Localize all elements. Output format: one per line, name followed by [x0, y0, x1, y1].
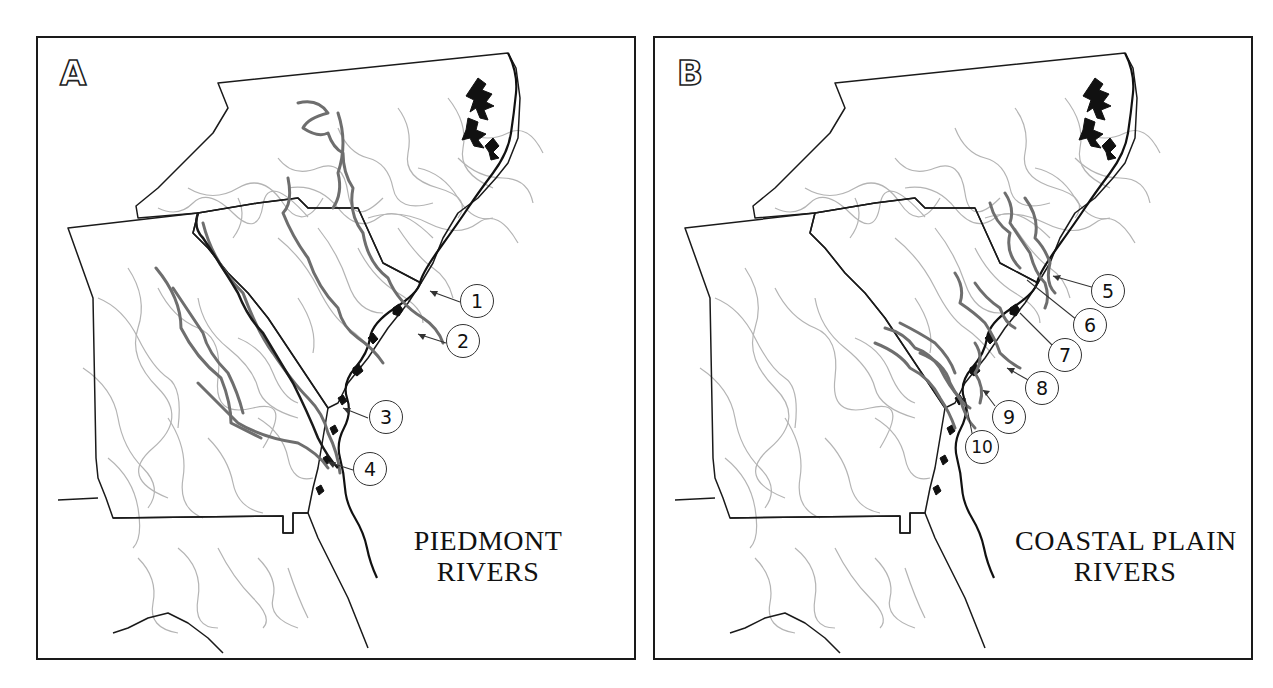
callout-5: 5	[1091, 274, 1125, 308]
panel-a-piedmont-rivers: A 1 2 3 4 PIEDMONT RIVERS	[36, 36, 636, 660]
callout-8: 8	[1025, 371, 1059, 405]
panel-label-a: A	[60, 56, 86, 90]
callout-2: 2	[446, 324, 480, 358]
callout-7: 7	[1048, 338, 1082, 372]
callout-9: 9	[992, 400, 1026, 434]
panel-b-title: COASTAL PLAIN RIVERS	[1015, 525, 1235, 587]
panel-b-title-line1: COASTAL PLAIN	[1015, 525, 1235, 556]
callout-3: 3	[369, 400, 403, 434]
panel-label-b: B	[677, 56, 703, 90]
panel-b-coastal-plain-rivers: B 5 6 7 8 9 10 COASTAL PLAIN RIVERS	[653, 36, 1253, 660]
panel-b-title-line2: RIVERS	[1015, 556, 1235, 587]
panel-a-title: PIEDMONT RIVERS	[388, 525, 588, 587]
callout-10: 10	[965, 430, 999, 464]
callout-1: 1	[460, 284, 494, 318]
callout-6: 6	[1073, 308, 1107, 342]
callout-4: 4	[353, 452, 387, 486]
panel-a-title-line1: PIEDMONT	[388, 525, 588, 556]
panel-a-title-line2: RIVERS	[388, 556, 588, 587]
